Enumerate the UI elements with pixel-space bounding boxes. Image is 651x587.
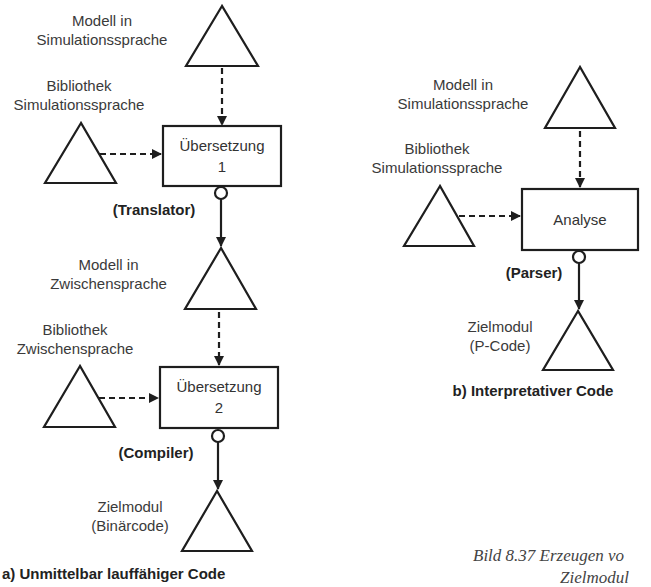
- label-line: Simulationssprache: [358, 158, 516, 177]
- label-lib-inter: Bibliothek Zwischensprache: [5, 320, 145, 358]
- label-lib-sim-left: Bibliothek Simulationssprache: [0, 76, 158, 114]
- label-line: Simulationssprache: [0, 95, 158, 114]
- label-line: (Binärcode): [80, 516, 180, 535]
- model-inter-triangle: [185, 248, 256, 309]
- box1-text: Übersetzung 1: [163, 135, 281, 177]
- target-pcode-triangle: [543, 311, 613, 370]
- label-line: Zwischensprache: [5, 339, 145, 358]
- label-lib-sim-right: Bibliothek Simulationssprache: [358, 139, 516, 177]
- label-line: Simulationssprache: [22, 30, 182, 49]
- box1-line2: 1: [163, 156, 281, 177]
- figure-caption: Bild 8.37 Erzeugen vo: [473, 546, 624, 566]
- label-line: (P-Code): [455, 336, 545, 355]
- tool-compiler: (Compiler): [108, 443, 204, 462]
- label-model-sim-left: Modell in Simulationssprache: [22, 11, 182, 49]
- label-line: Zielmodul: [80, 497, 180, 516]
- label-model-inter: Modell in Zwischensprache: [36, 255, 181, 293]
- port-circle-parser: [573, 251, 585, 263]
- tool-translator: (Translator): [104, 200, 204, 219]
- label-line: Zwischensprache: [36, 274, 181, 293]
- label-model-sim-right: Modell in Simulationssprache: [383, 75, 543, 113]
- label-line: Modell in: [36, 255, 181, 274]
- lib-inter-triangle: [44, 366, 115, 427]
- label-line: Bibliothek: [358, 139, 516, 158]
- label-line: Zielmodul: [455, 317, 545, 336]
- heading-left: a) Unmittelbar lauffähiger Code: [2, 564, 225, 583]
- model-sim-triangle-right: [545, 67, 615, 128]
- tool-parser: (Parser): [494, 263, 574, 282]
- label-target-pcode: Zielmodul (P-Code): [455, 317, 545, 355]
- label-line: Modell in: [383, 75, 543, 94]
- heading-right: b) Interpretativer Code: [433, 381, 633, 400]
- label-line: Simulationssprache: [383, 94, 543, 113]
- model-sim-triangle-left: [186, 6, 258, 66]
- box2-line2: 2: [160, 397, 278, 418]
- port-circle-1: [215, 187, 227, 199]
- figure-caption-line2: Zielmodul: [560, 568, 629, 587]
- port-circle-2: [212, 430, 224, 442]
- box1-line1: Übersetzung: [163, 135, 281, 156]
- analyse-text: Analyse: [522, 209, 638, 230]
- target-binary-triangle: [182, 491, 252, 551]
- box2-line1: Übersetzung: [160, 376, 278, 397]
- label-line: Bibliothek: [5, 320, 145, 339]
- label-line: Modell in: [22, 11, 182, 30]
- label-line: Bibliothek: [0, 76, 158, 95]
- label-target-binary: Zielmodul (Binärcode): [80, 497, 180, 535]
- box2-text: Übersetzung 2: [160, 376, 278, 418]
